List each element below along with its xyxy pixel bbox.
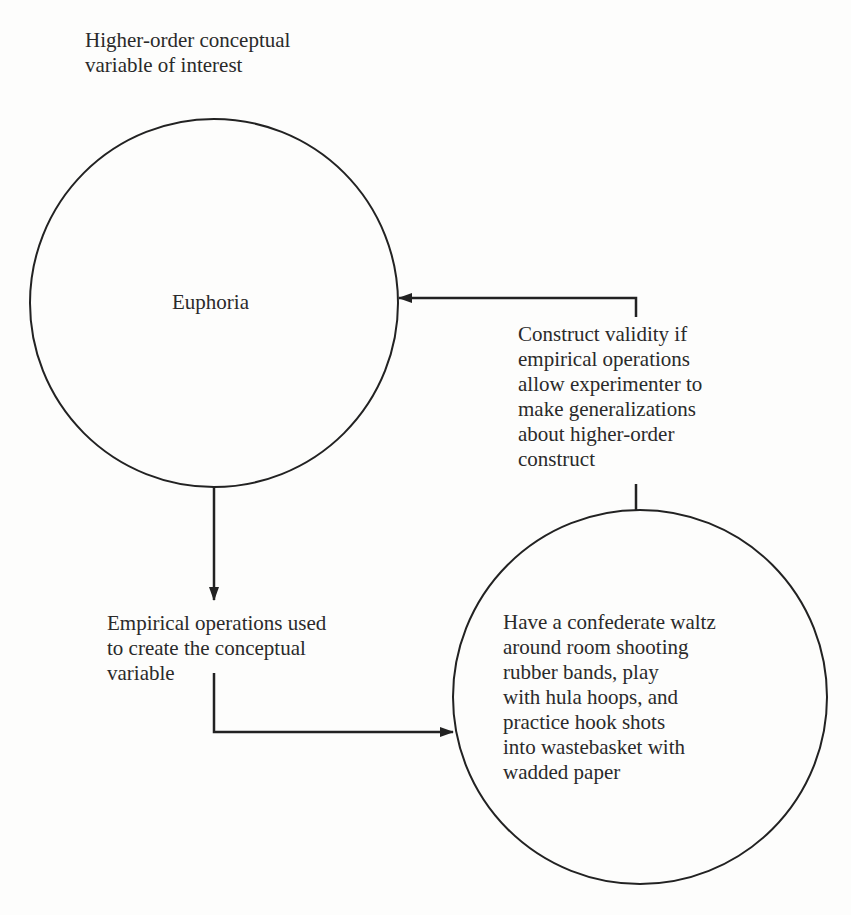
operations-label: Have a confederate waltz around room sho… — [503, 610, 716, 785]
empirical-caption: Empirical operations used to create the … — [107, 611, 326, 686]
top-caption: Higher-order conceptual variable of inte… — [85, 28, 290, 78]
arrow-construct-validity — [399, 298, 636, 317]
construct-validity-label: Construct validity if empirical operatio… — [518, 322, 702, 472]
conceptual-variable-label: Euphoria — [172, 290, 249, 315]
diagram-canvas — [0, 0, 851, 915]
